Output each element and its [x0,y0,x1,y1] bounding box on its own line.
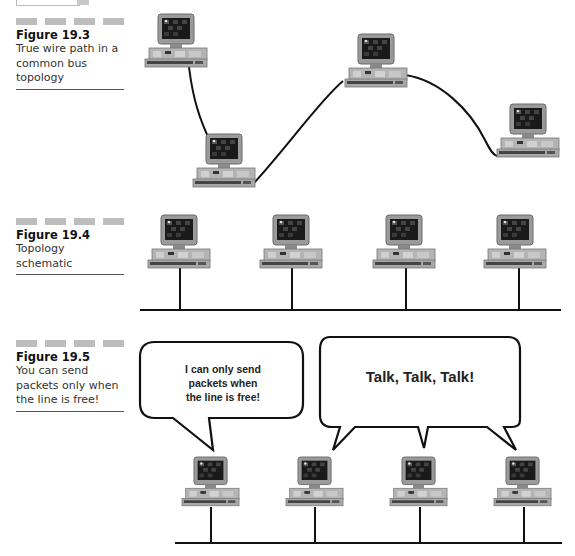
computer-icon [494,457,551,506]
computer-icon [193,134,255,187]
bubble-right-text: Talk, Talk, Talk! [330,368,510,385]
computer-icon [148,215,210,268]
network-illustrations [0,0,575,556]
computer-icon [345,34,407,87]
computer-icon [390,457,447,506]
bubble-left-text: I can only send packets when the line is… [182,362,264,404]
computer-icon [260,215,322,268]
computer-icon [373,215,435,268]
wire-path-fig-19-3 [189,67,210,141]
computer-icon [286,457,343,506]
computer-icon [497,104,559,157]
computer-icon [484,215,546,268]
speech-bubble-right [320,337,520,450]
computer-icon [182,457,239,506]
computer-icon [145,14,207,67]
